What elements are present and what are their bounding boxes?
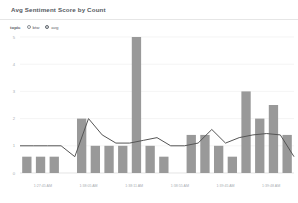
legend-group-label: topic (10, 25, 21, 30)
y-axis-tick-label: 3 (13, 89, 16, 94)
bar[interactable] (255, 119, 264, 173)
page-title: Avg Sentiment Score by Count (11, 6, 106, 13)
y-axis-tick-label: 1 (13, 143, 16, 148)
chart-widget: Avg Sentiment Score by Count topic btw a… (0, 0, 298, 203)
legend-option-btw[interactable]: btw (27, 25, 40, 30)
bar[interactable] (36, 157, 45, 173)
line-series (20, 119, 294, 157)
x-axis-tick-label: 1:27:45 AM (34, 184, 52, 188)
radio-icon[interactable] (27, 25, 31, 29)
bar[interactable] (159, 157, 168, 173)
bar[interactable] (187, 135, 196, 173)
plot-area: 0123451:27:45 AM1:38:05 AM1:38:11 AM1:38… (0, 31, 298, 203)
bar[interactable] (50, 157, 59, 173)
bar[interactable] (22, 157, 31, 173)
bar[interactable] (214, 146, 223, 173)
widget-header: Avg Sentiment Score by Count (0, 0, 298, 20)
bar[interactable] (228, 157, 237, 173)
x-axis-tick-label: 1:38:55 AM (171, 184, 189, 188)
y-axis-tick-label: 0 (13, 171, 16, 176)
legend-option-avg-label: avg (51, 25, 58, 30)
bar[interactable] (91, 146, 100, 173)
legend-option-btw-label: btw (33, 25, 40, 30)
x-axis-tick-label: 1:38:05 AM (79, 184, 97, 188)
radio-selected-icon[interactable] (45, 25, 49, 29)
legend-control-row: topic btw avg (0, 20, 298, 31)
bar[interactable] (200, 135, 209, 173)
legend-option-avg[interactable]: avg (45, 25, 58, 30)
y-axis-tick-label: 2 (13, 116, 16, 121)
chart-canvas: 0123451:27:45 AM1:38:05 AM1:38:11 AM1:38… (0, 31, 298, 203)
y-axis-tick-label: 5 (13, 35, 16, 40)
x-axis-tick-label: 1:39:45 AM (216, 184, 234, 188)
bar[interactable] (118, 146, 127, 173)
bar[interactable] (132, 37, 141, 173)
y-axis-tick-label: 4 (13, 62, 16, 67)
bar[interactable] (145, 146, 154, 173)
bar[interactable] (241, 91, 250, 173)
x-axis-tick-label: 1:39:48 AM (262, 184, 280, 188)
bar[interactable] (269, 105, 278, 173)
x-axis-tick-label: 1:38:11 AM (125, 184, 143, 188)
bar[interactable] (104, 146, 113, 173)
